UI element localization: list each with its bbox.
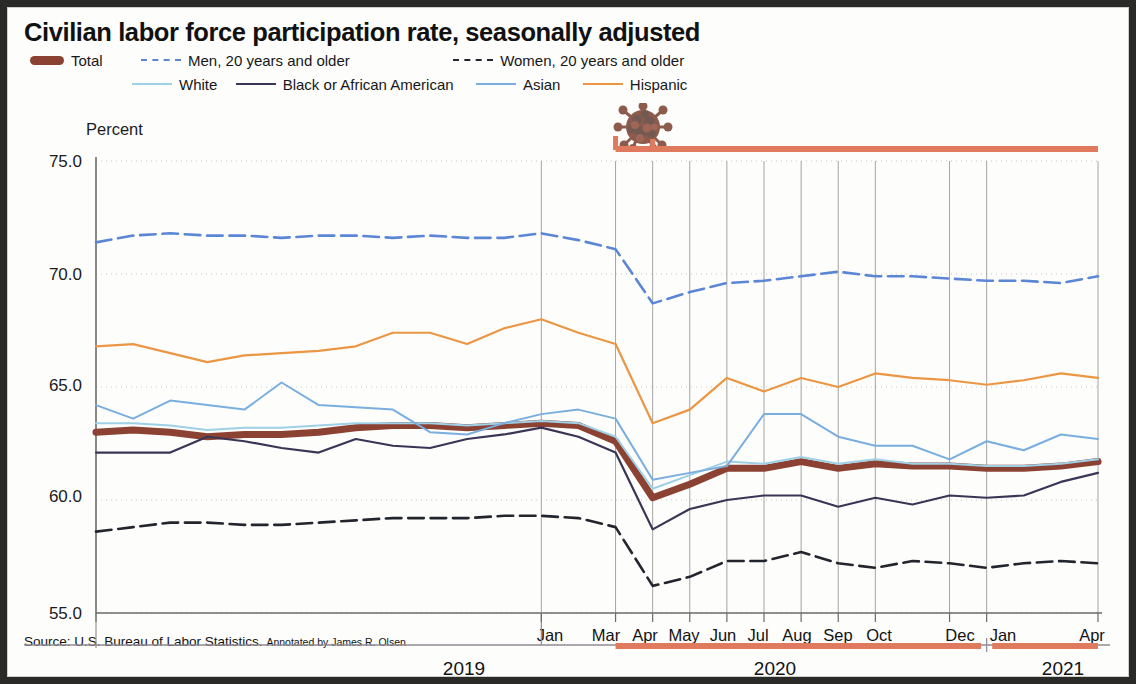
axis-lines [24, 157, 1110, 652]
series-line-women-20-years-and-older [96, 516, 1098, 586]
data-series-group [96, 233, 1098, 586]
x-tick-marks [96, 613, 1098, 622]
series-line-men-20-years-and-older [96, 233, 1098, 303]
gridlines [96, 161, 1098, 613]
vertical-gridlines [541, 161, 1098, 613]
chart-content: Civilian labor force participation rate,… [0, 0, 1136, 684]
chart-canvas [0, 0, 1136, 684]
series-line-black-or-african-american [96, 428, 1098, 530]
series-line-total [96, 423, 1098, 498]
chart-page: Civilian labor force participation rate,… [0, 0, 1136, 684]
covid-period-bar [616, 136, 1098, 646]
